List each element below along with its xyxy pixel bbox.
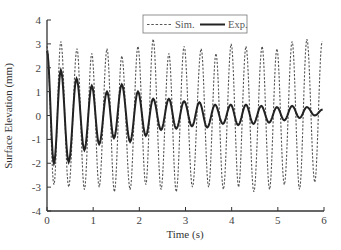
y-tick-label: 2 [36,62,42,74]
chart: 0123456 -4-3-2-101234 Time (s) Surface E… [0,0,341,250]
legend-sim-label: Sim. [175,19,195,30]
x-tick-label: 2 [137,214,143,226]
y-tick-label: -3 [32,181,42,193]
x-tick-label: 6 [321,214,327,226]
x-tick-label: 0 [44,214,50,226]
y-tick-label: -1 [32,133,41,145]
plot-series [47,39,323,192]
x-axis-title: Time (s) [166,228,204,241]
x-tick-label: 3 [183,214,189,226]
x-tick-label: 5 [275,214,281,226]
y-tick-label: 3 [36,38,42,50]
x-tick-label: 4 [229,214,235,226]
legend: Sim. Exp. [143,15,248,33]
y-tick-label: -4 [32,205,42,217]
y-tick-label: 1 [36,86,42,98]
y-ticks: -4-3-2-101234 [32,14,51,217]
y-tick-label: 4 [36,14,42,26]
y-tick-label: 0 [36,110,42,122]
x-tick-label: 1 [90,214,96,226]
y-tick-label: -2 [32,157,41,169]
legend-exp-label: Exp. [228,19,248,30]
y-axis-title: Surface Elevation (mm) [2,63,15,169]
x-ticks: 0123456 [44,207,327,226]
